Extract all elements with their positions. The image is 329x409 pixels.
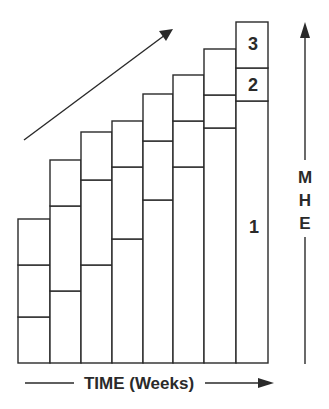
segment-2 xyxy=(18,265,50,317)
segment-1 xyxy=(173,167,204,363)
mhe-letter-e: E xyxy=(299,214,310,233)
column-week-5 xyxy=(143,94,173,363)
segment-3 xyxy=(143,94,173,141)
segment-3 xyxy=(50,160,81,206)
segment-2 xyxy=(204,95,236,128)
segment-1 xyxy=(112,239,143,363)
segment-1 xyxy=(18,317,50,363)
mhe-axis: M H E xyxy=(298,22,312,364)
segment-3 xyxy=(173,75,204,121)
stacked-columns xyxy=(18,22,268,363)
up-arrow-icon xyxy=(300,22,310,38)
column-week-7 xyxy=(204,49,236,363)
segment-3 xyxy=(18,219,50,265)
segment-2 xyxy=(143,141,173,200)
segment-2 xyxy=(50,206,81,291)
time-axis: TIME (Weeks) xyxy=(25,374,274,393)
segment-3 xyxy=(112,121,143,167)
column-week-4 xyxy=(112,121,143,363)
segment-1 xyxy=(204,128,236,363)
time-axis-label: TIME (Weeks) xyxy=(84,374,194,393)
segment-3 xyxy=(81,132,112,180)
segment-1 xyxy=(143,200,173,363)
right-arrow-icon xyxy=(258,378,274,388)
segment-label-2: 2 xyxy=(248,75,258,95)
mhe-letter-h: H xyxy=(299,191,311,210)
segment-2 xyxy=(173,121,204,167)
column-week-2 xyxy=(50,160,81,363)
segment-2 xyxy=(112,167,143,239)
column-week-6 xyxy=(173,75,204,363)
column-week-3 xyxy=(81,132,112,363)
column-week-8 xyxy=(236,22,268,363)
mhe-stacked-diagram: 3 2 1 M H E TIME (Weeks) xyxy=(0,0,329,409)
segment-label-3: 3 xyxy=(248,34,258,54)
mhe-letter-m: M xyxy=(298,168,312,187)
segment-1 xyxy=(50,291,81,363)
segment-1 xyxy=(81,265,112,363)
column-week-1 xyxy=(18,219,50,363)
segment-3 xyxy=(204,49,236,95)
segment-label-1: 1 xyxy=(249,217,259,237)
segment-2 xyxy=(81,180,112,265)
